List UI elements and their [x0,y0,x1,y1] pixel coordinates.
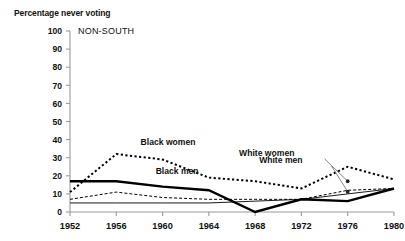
series-lines [70,154,394,212]
x-tick-label: 1968 [245,221,265,231]
series-label-white-men: White men [259,155,302,165]
y-tick-label: 70 [52,81,62,91]
x-tick-label: 1980 [384,221,404,231]
y-tick-label: 80 [52,62,62,72]
series-line-black-women [70,154,394,192]
series-label-black-women: Black women [141,137,196,147]
series-annotations: Black womenBlack menWhite womenWhite men [141,137,350,194]
chart-plot-area: 0102030405060708090100 19521956196019641… [0,0,405,241]
x-tick-label: 1972 [291,221,311,231]
y-tick-label: 0 [57,207,62,217]
y-tick-label: 50 [52,117,62,127]
y-tick-label: 30 [52,153,62,163]
annotation-leader-arrowhead [346,179,350,183]
x-tick-label: 1956 [106,221,126,231]
annotation-leader-arrowhead [346,190,350,194]
x-tick-label: 1960 [152,221,172,231]
chart-container: Percentage never voting NON-SOUTH 010203… [0,0,405,241]
x-tick-label: 1964 [199,221,220,231]
series-line-black-men [70,181,394,212]
y-axis: 0102030405060708090100 [48,26,70,217]
x-axis: 19521956196019641968197219761980 [60,212,404,231]
annotation-leader-line [325,159,348,181]
y-tick-label: 20 [52,171,62,181]
y-tick-label: 90 [52,44,62,54]
y-tick-label: 60 [52,99,62,109]
y-tick-label: 40 [52,135,62,145]
y-tick-label: 10 [52,189,62,199]
series-label-black-men: Black men [156,166,199,176]
x-tick-label: 1952 [60,221,80,231]
y-tick-label: 100 [48,26,63,36]
x-tick-label: 1976 [337,221,357,231]
